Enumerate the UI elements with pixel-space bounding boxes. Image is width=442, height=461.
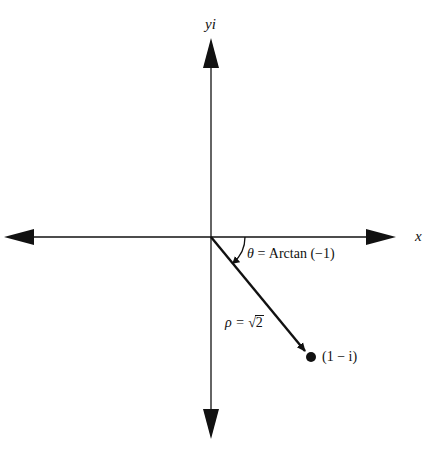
theta-expression: = Arctan (−1): [254, 246, 335, 261]
y-axis-label: yi: [205, 17, 216, 32]
x-axis-label: x: [415, 229, 422, 244]
y-axis-down-arrow-icon: [203, 409, 219, 439]
sqrt-radicand: 2: [255, 315, 264, 330]
x-axis: [4, 229, 396, 245]
point-label: (1 − i): [322, 350, 357, 364]
theta-symbol: θ: [247, 246, 254, 261]
theta-label: θ = Arctan (−1): [247, 247, 335, 261]
y-axis-up-arrow-icon: [203, 38, 219, 68]
rho-label: ρ = √2: [225, 315, 264, 330]
sqrt-icon: √2: [248, 315, 264, 330]
rho-prefix: ρ =: [225, 315, 248, 330]
x-axis-left-arrow-icon: [4, 229, 34, 245]
point-dot: [306, 352, 316, 362]
x-axis-right-arrow-icon: [366, 229, 396, 245]
theta-arc: [233, 237, 245, 263]
complex-plane-diagram: [0, 0, 442, 461]
